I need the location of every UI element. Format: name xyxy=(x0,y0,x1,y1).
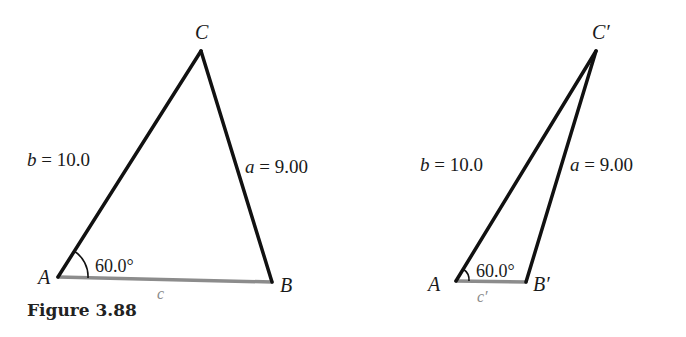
triangle-abc xyxy=(58,51,272,282)
side-b-eq: = xyxy=(37,149,57,170)
side-a-value-right: 9.00 xyxy=(600,154,633,175)
side-a-label-left: a = 9.00 xyxy=(245,157,308,176)
vertex-label-b-prime: B′ xyxy=(533,274,550,294)
vertex-label-b: B xyxy=(280,275,292,295)
side-a-value: 9.00 xyxy=(275,156,308,177)
side-b-var: b xyxy=(27,149,37,170)
side-c-right xyxy=(456,281,526,282)
vertex-label-a: A xyxy=(38,267,50,287)
side-c-label-left: c xyxy=(157,286,164,302)
angle-a-label-left: 60.0° xyxy=(95,257,134,275)
angle-arc-left xyxy=(74,251,88,278)
side-a-var-right: a xyxy=(570,154,580,175)
side-a-label-right: a = 9.00 xyxy=(570,155,633,174)
side-c-prime-label: c′ xyxy=(477,289,488,305)
figure-caption: Figure 3.88 xyxy=(27,302,137,319)
side-c-left xyxy=(58,277,272,282)
vertex-label-c: C xyxy=(195,22,208,42)
side-b-label-right: b = 10.0 xyxy=(420,155,483,174)
side-b-eq-right: = xyxy=(430,154,450,175)
angle-a-label-right: 60.0° xyxy=(476,262,515,280)
side-a-eq-right: = xyxy=(580,154,600,175)
side-b-value-right: 10.0 xyxy=(450,154,483,175)
side-b-label-left: b = 10.0 xyxy=(27,150,90,169)
vertex-label-c-prime: C′ xyxy=(592,22,610,42)
side-a-eq: = xyxy=(255,156,275,177)
side-b-var-right: b xyxy=(420,154,430,175)
side-a-var: a xyxy=(245,156,255,177)
side-b-value: 10.0 xyxy=(57,149,90,170)
vertex-label-a-right: A xyxy=(428,274,440,294)
